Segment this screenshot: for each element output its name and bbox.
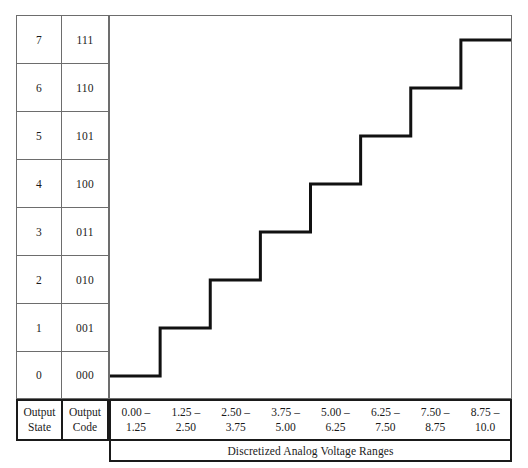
voltage-range-low: 5.00 –	[321, 405, 350, 420]
voltage-range-high: 10.0	[475, 420, 495, 435]
header-output-code-line1: Output	[69, 405, 101, 420]
cell-output-code: 101	[62, 112, 108, 159]
table-row: 1001	[16, 303, 109, 351]
table-row: 0000	[16, 351, 109, 399]
voltage-range-label: 8.75 –10.0	[460, 401, 510, 439]
voltage-range-low: 8.75 –	[471, 405, 500, 420]
header-output-state-line2: State	[28, 420, 51, 435]
voltage-range-label: 7.50 –8.75	[410, 401, 460, 439]
table-row: 7111	[16, 15, 109, 63]
staircase-path	[110, 40, 511, 376]
staircase-plot-area	[109, 15, 512, 399]
header-cell-output-code: Output Code	[63, 401, 107, 439]
cell-output-state: 0	[17, 352, 62, 398]
cell-output-state: 6	[17, 64, 62, 111]
table-row: 3011	[16, 207, 109, 255]
cell-output-code: 011	[62, 208, 108, 255]
cell-output-code: 111	[62, 16, 108, 63]
voltage-range-axis-band: 0.00 –1.251.25 –2.502.50 –3.753.75 –5.00…	[109, 399, 512, 441]
voltage-range-high: 7.50	[375, 420, 395, 435]
header-output-state-line1: Output	[24, 405, 56, 420]
cell-output-state: 4	[17, 160, 62, 207]
table-row: 6110	[16, 63, 109, 111]
voltage-range-high: 5.00	[276, 420, 296, 435]
header-cell-output-state: Output State	[18, 401, 63, 439]
voltage-range-low: 1.25 –	[171, 405, 200, 420]
voltage-range-label: 3.75 –5.00	[261, 401, 311, 439]
table-header-row: Output State Output Code	[16, 399, 109, 441]
figure-caption-text: Discretized Analog Voltage Ranges	[227, 445, 393, 457]
voltage-range-high: 6.25	[325, 420, 345, 435]
cell-output-state: 7	[17, 16, 62, 63]
cell-output-state: 3	[17, 208, 62, 255]
cell-output-code: 110	[62, 64, 108, 111]
voltage-range-high: 3.75	[226, 420, 246, 435]
voltage-range-high: 8.75	[425, 420, 445, 435]
header-output-code-line2: Code	[73, 420, 97, 435]
voltage-range-low: 7.50 –	[421, 405, 450, 420]
table-row: 4100	[16, 159, 109, 207]
table-row: 5101	[16, 111, 109, 159]
table-row: 2010	[16, 255, 109, 303]
cell-output-code: 001	[62, 304, 108, 351]
cell-output-code: 000	[62, 352, 108, 398]
voltage-range-label: 2.50 –3.75	[211, 401, 261, 439]
cell-output-code: 010	[62, 256, 108, 303]
cell-output-state: 5	[17, 112, 62, 159]
voltage-range-label: 6.25 –7.50	[360, 401, 410, 439]
figure-caption-bar: Discretized Analog Voltage Ranges	[109, 441, 512, 462]
cell-output-state: 2	[17, 256, 62, 303]
voltage-range-low: 2.50 –	[221, 405, 250, 420]
voltage-range-label: 0.00 –1.25	[111, 401, 161, 439]
voltage-range-label: 1.25 –2.50	[161, 401, 211, 439]
cell-output-state: 1	[17, 304, 62, 351]
voltage-range-label: 5.00 –6.25	[311, 401, 361, 439]
output-state-code-table: 71116110510141003011201010010000	[16, 15, 109, 399]
adc-transfer-function-figure: 71116110510141003011201010010000 Output …	[0, 0, 528, 468]
voltage-range-low: 6.25 –	[371, 405, 400, 420]
voltage-range-low: 0.00 –	[122, 405, 151, 420]
voltage-range-low: 3.75 –	[271, 405, 300, 420]
voltage-range-high: 2.50	[176, 420, 196, 435]
staircase-transfer-curve	[110, 16, 511, 398]
cell-output-code: 100	[62, 160, 108, 207]
voltage-range-high: 1.25	[126, 420, 146, 435]
